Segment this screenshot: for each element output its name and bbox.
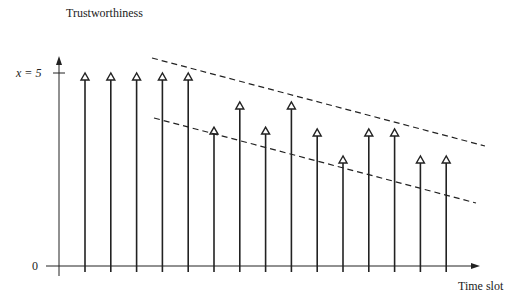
y-axis-label: Trustworthiness xyxy=(66,6,143,21)
stem-arrow-icon xyxy=(339,156,347,163)
stem-arrow-icon xyxy=(442,156,450,163)
stem-arrow-icon xyxy=(365,129,373,136)
stem-arrow-icon xyxy=(236,102,244,109)
stem-arrow-icon xyxy=(133,73,141,80)
stem-arrow-icon xyxy=(391,129,399,136)
stem-arrow-icon xyxy=(107,73,115,80)
stem-arrow-icon xyxy=(81,73,89,80)
x-axis-arrow-icon xyxy=(471,263,480,269)
stem-arrow-icon xyxy=(158,73,166,80)
stem-arrow-icon xyxy=(287,102,295,109)
stem-arrow-icon xyxy=(210,127,218,134)
stem-arrow-icon xyxy=(313,129,321,136)
x-axis-label: Time slot xyxy=(458,279,503,294)
stem-arrow-icon xyxy=(262,127,270,134)
y-tick-label-5: x = 5 xyxy=(16,66,41,81)
y-tick-label-0: 0 xyxy=(32,259,38,274)
stem-arrow-icon xyxy=(416,156,424,163)
stems xyxy=(81,73,450,272)
y-axis-arrow-icon xyxy=(56,56,62,65)
stem-arrow-icon xyxy=(184,73,192,80)
trust-stem-diagram xyxy=(0,0,518,301)
